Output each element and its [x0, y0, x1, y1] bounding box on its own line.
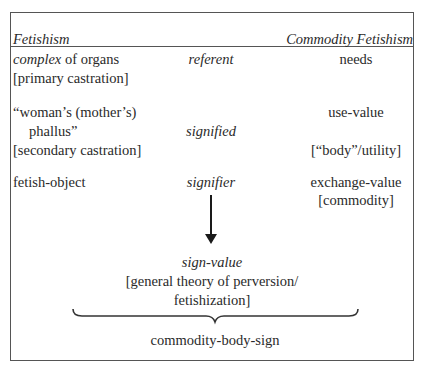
- connectors: [0, 0, 424, 374]
- synthesis-commodity-body-sign: commodity-body-sign: [151, 331, 280, 349]
- result-line2: fetishization]: [174, 291, 251, 309]
- curly-brace-icon: [73, 309, 358, 322]
- result-line1: [general theory of perversion/: [126, 272, 299, 290]
- arrow-down-icon: [205, 195, 217, 244]
- result-sign-value: sign-value: [182, 253, 242, 271]
